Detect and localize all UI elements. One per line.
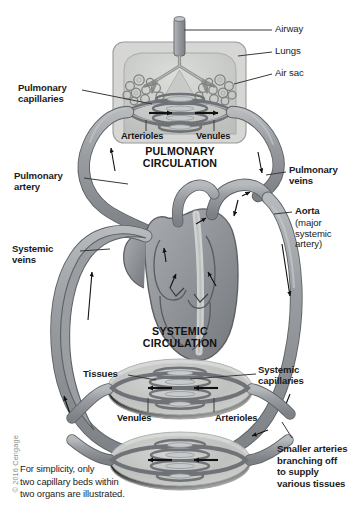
label-pulmonary-capillaries: Pulmonary capillaries [18,83,88,104]
label-tissues: Tissues [83,369,118,380]
copyright-notice: © 2016 Cengage [11,421,20,493]
title-systemic-circulation: SYSTEMIC CIRCULATION [124,326,236,350]
note-simplification: For simplicity, only two capillary beds … [20,463,170,501]
label-pulmonary-veins: Pulmonary veins [289,165,359,186]
label-lungs: Lungs [275,46,301,57]
label-systemic-arterioles: Arterioles [215,413,257,423]
label-pulmonary-artery: Pulmonary artery [14,171,86,192]
circulatory-system-figure: Airway Lungs Air sac Pulmonary capillari… [0,0,359,513]
label-smaller-arteries: Smaller arteries branching off to supply… [277,443,359,490]
label-aorta: Aorta [295,206,320,217]
label-systemic-venules: Venules [117,413,151,423]
title-pulmonary-circulation: PULMONARY CIRCULATION [124,146,236,170]
label-systemic-veins: Systemic veins [12,244,82,265]
label-aorta-subtext: (major systemic artery) [295,218,357,250]
label-airway: Airway [275,24,303,35]
lungs-group [113,17,246,143]
label-pulmonary-venules: Venules [196,131,230,141]
label-systemic-capillaries: Systemic capillaries [258,365,338,386]
label-pulmonary-arterioles: Arterioles [121,131,163,141]
label-air-sac: Air sac [275,68,304,79]
